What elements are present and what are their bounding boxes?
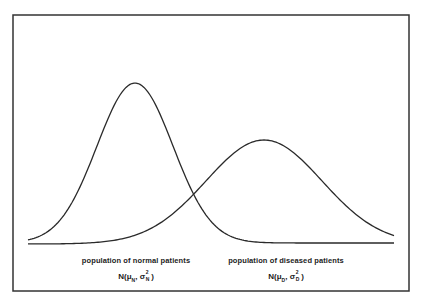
distribution-diagram	[0, 0, 423, 306]
sigma-term: σ2N	[140, 272, 145, 281]
sigma-superscript: 2	[146, 269, 149, 275]
normal-patients-curve	[28, 83, 394, 243]
formula-suffix: )	[301, 272, 304, 281]
sigma-subscript: N	[146, 276, 150, 282]
normal-distribution-formula: N(μN, σ2N)	[118, 272, 154, 283]
diseased-population-label: population of diseased patients	[228, 256, 344, 265]
sigma-superscript: 2	[296, 269, 299, 275]
formula-suffix: )	[151, 272, 154, 281]
sigma-term: σ2D	[290, 272, 295, 281]
diseased-patients-curve	[28, 140, 394, 244]
sigma-symbol: σ	[290, 272, 295, 281]
sigma-symbol: σ	[140, 272, 145, 281]
normal-population-label: population of normal patients	[82, 256, 190, 265]
sigma-subscript: D	[296, 276, 300, 282]
figure-frame	[13, 15, 409, 291]
diseased-distribution-formula: N(μD, σ2D)	[268, 272, 304, 283]
